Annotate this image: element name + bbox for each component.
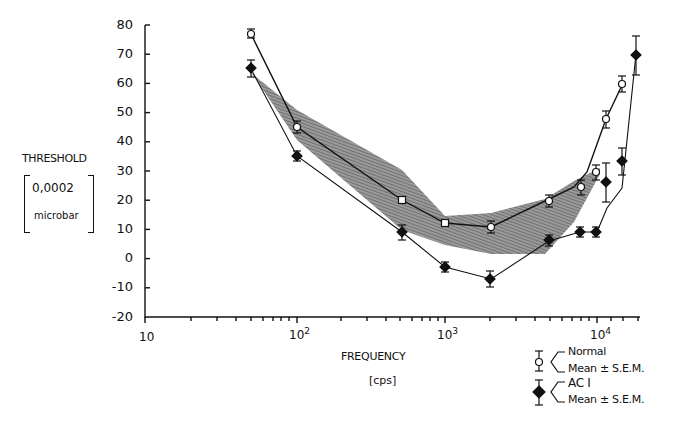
legend-aci-icon: [533, 380, 545, 405]
y-unit-top: 0,0002: [32, 181, 74, 195]
y-axis: [145, 25, 150, 318]
y-tick-label: 70: [93, 46, 133, 61]
x-tick-label: 104: [590, 326, 611, 342]
x-tick-label: 10: [139, 328, 154, 344]
y-tick-label: 50: [93, 104, 133, 119]
y-tick-label: 40: [93, 133, 133, 148]
aci-point: [601, 163, 611, 202]
y-tick-label: 0: [93, 250, 133, 265]
legend-normal-brace: [551, 352, 565, 372]
legend-normal-icon: [535, 351, 543, 371]
x-tick-label: 103: [437, 326, 458, 342]
y-tick-label: 20: [93, 192, 133, 207]
aci-point: [575, 227, 585, 237]
legend-aci-desc: Mean ± S.E.M.: [568, 393, 644, 406]
y-tick-label: -10: [93, 279, 133, 294]
legend-symbols: [533, 351, 565, 405]
legend-normal-label: Normal: [568, 345, 606, 358]
aci-point: [591, 227, 601, 237]
aci-point: [485, 271, 495, 287]
legend-aci-brace: [551, 382, 565, 402]
right-bracket: [88, 175, 94, 233]
x-axis-label: FREQUENCY: [341, 350, 405, 363]
y-unit-bottom: microbar: [34, 210, 79, 221]
normal-range-band: [250, 72, 600, 254]
x-axis-unit: [cps]: [369, 374, 396, 387]
y-tick-label: -20: [93, 309, 133, 324]
y-tick-label: 30: [93, 163, 133, 178]
y-tick-label: 60: [93, 75, 133, 90]
legend-normal-desc: Mean ± S.E.M.: [568, 362, 644, 375]
y-axis-unit: 0,0002 microbar: [24, 175, 94, 231]
x-tick-label: 102: [289, 326, 310, 342]
aci-point: [631, 36, 641, 75]
normal-point: [247, 29, 255, 38]
legend-aci-label: AC I: [568, 376, 591, 390]
y-tick-label: 80: [93, 17, 133, 32]
y-tick-label: 10: [93, 221, 133, 236]
normal-point: [442, 220, 449, 227]
aci-point: [292, 151, 302, 161]
aci-series-line: [251, 54, 636, 279]
y-axis-label: THRESHOLD: [22, 152, 87, 165]
x-axis: [145, 317, 640, 323]
left-bracket: [24, 175, 30, 233]
normal-point: [399, 197, 406, 204]
